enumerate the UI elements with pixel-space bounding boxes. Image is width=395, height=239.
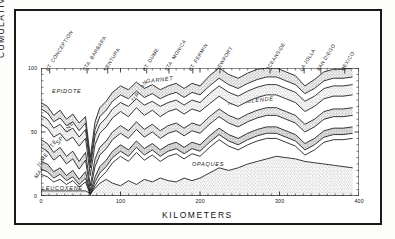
x-tick-label: 400 <box>355 198 364 204</box>
x-tick-label: 0 <box>40 198 43 204</box>
x-axis-title: KILOMETERS <box>0 210 395 220</box>
y-tick-label: 0 <box>34 193 37 199</box>
y-tick-label: 50 <box>31 129 37 135</box>
x-tick-label: 200 <box>196 198 205 204</box>
y-tick-label: 100 <box>28 65 37 71</box>
x-tick-label: 100 <box>116 198 125 204</box>
figure-container: CUMULATIVE PERCENTAGE KILOMETERS PT. CON… <box>0 0 395 239</box>
x-tick-label: 300 <box>275 198 284 204</box>
stacked-area-plot <box>41 68 359 196</box>
plot-area <box>41 68 359 196</box>
y-axis-title: CUMULATIVE PERCENTAGE <box>0 0 6 58</box>
